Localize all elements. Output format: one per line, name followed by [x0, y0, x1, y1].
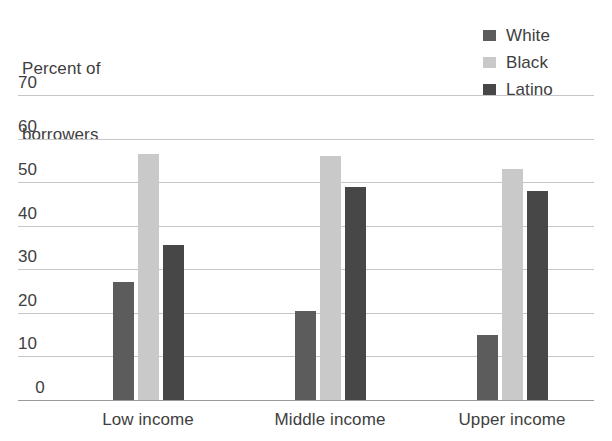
y-axis-tick-label: 40 [18, 205, 62, 222]
plot-area: 706050403020100Low incomeMiddle incomeUp… [0, 0, 612, 441]
y-axis-tick-label: 30 [18, 248, 62, 265]
axis-baseline [18, 400, 594, 401]
bar-white-low [113, 282, 134, 400]
bar-black-low [138, 154, 159, 400]
y-axis-tick-label: 60 [18, 118, 62, 135]
bar-latino-upper [527, 191, 548, 400]
bar-black-upper [502, 169, 523, 400]
bar-white-middle [295, 311, 316, 400]
y-axis-tick-label: 10 [18, 335, 62, 352]
y-axis-tick-label: 20 [18, 292, 62, 309]
y-axis-tick-label: 0 [20, 379, 60, 396]
x-axis-category-label: Low income [102, 410, 194, 429]
y-axis-tick-label: 70 [18, 74, 62, 91]
bar-chart: Percent of borrowers White Black Latino … [0, 0, 612, 441]
gridline [18, 139, 594, 140]
bar-latino-low [163, 245, 184, 400]
x-axis-category-label: Upper income [458, 410, 565, 429]
x-axis-category-label: Middle income [275, 410, 386, 429]
bar-white-upper [477, 335, 498, 400]
y-axis-tick-label: 50 [18, 161, 62, 178]
bar-latino-middle [345, 187, 366, 401]
gridline [18, 95, 594, 96]
bar-black-middle [320, 156, 341, 400]
